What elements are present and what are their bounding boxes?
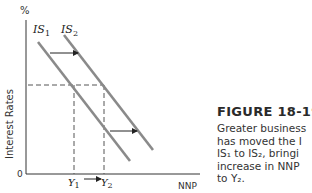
is1-label: IS1: [32, 23, 50, 38]
x-axis-label: NNP: [178, 181, 197, 191]
caption-line: IS₁ to IS₂, bringi: [217, 147, 312, 160]
y2-label: Y2: [101, 177, 113, 190]
figure-caption: FIGURE 18-19 Greater business has moved …: [217, 104, 312, 185]
caption-line: has moved the I: [217, 135, 312, 148]
y-axis-label: Interest Rates: [4, 89, 15, 159]
y1-label: Y1: [68, 177, 80, 190]
caption-line: increase in NNP: [217, 160, 312, 173]
caption-line: to Y₂.: [217, 172, 312, 185]
y-axis-unit: %: [20, 5, 30, 16]
caption-line: Greater business: [217, 122, 312, 135]
is2-label: IS2: [60, 23, 78, 38]
figure-number: FIGURE 18-19: [217, 104, 312, 119]
origin-label: 0: [17, 169, 23, 179]
